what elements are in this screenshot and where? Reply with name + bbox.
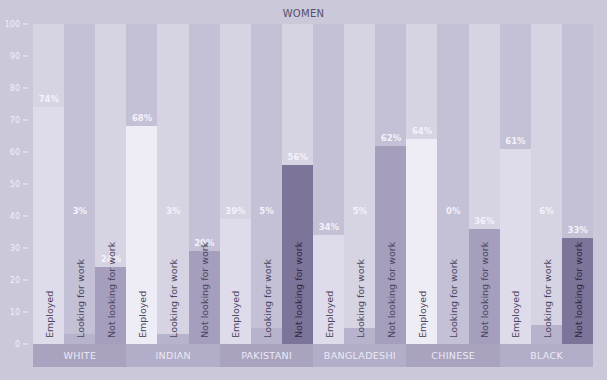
y-tick-mark bbox=[23, 312, 28, 313]
bar-track: 6%Looking for work bbox=[531, 24, 563, 344]
y-tick-label: 40 bbox=[10, 212, 20, 221]
y-tick-70: 70 bbox=[10, 116, 28, 125]
y-tick-label: 10 bbox=[10, 308, 20, 317]
series-label: Looking for work bbox=[541, 259, 552, 338]
value-label: 5% bbox=[251, 206, 283, 216]
y-tick-mark bbox=[23, 216, 28, 217]
y-tick-mark bbox=[23, 152, 28, 153]
y-tick-label: 0 bbox=[15, 340, 20, 349]
y-tick-mark bbox=[23, 88, 28, 89]
y-tick-mark bbox=[23, 56, 28, 57]
y-tick-mark bbox=[23, 120, 28, 121]
y-axis: 0102030405060708090100 bbox=[0, 0, 33, 380]
y-tick-label: 80 bbox=[10, 84, 20, 93]
series-label: Looking for work bbox=[354, 259, 365, 338]
series-label: Looking for work bbox=[261, 259, 272, 338]
value-label: 34% bbox=[313, 222, 345, 232]
series-label: Not looking for work bbox=[386, 242, 397, 338]
y-tick-label: 30 bbox=[10, 244, 20, 253]
value-label: 36% bbox=[469, 216, 501, 226]
plot-area: 74%Employed3%Looking for work24%Not look… bbox=[33, 0, 593, 380]
series-label: Employed bbox=[230, 291, 241, 338]
y-tick-label: 90 bbox=[10, 52, 20, 61]
y-tick-mark bbox=[23, 248, 28, 249]
bar-track: 74%Employed bbox=[33, 24, 65, 344]
y-tick-label: 100 bbox=[5, 20, 20, 29]
series-label: Not looking for work bbox=[292, 242, 303, 338]
y-tick-50: 50 bbox=[10, 180, 28, 189]
bar-track: 56%Not looking for work bbox=[282, 24, 314, 344]
series-label: Looking for work bbox=[74, 259, 85, 338]
series-label: Looking for work bbox=[168, 259, 179, 338]
y-tick-label: 50 bbox=[10, 180, 20, 189]
bar-track: 68%Employed bbox=[126, 24, 158, 344]
category-label-pakistani: PAKISTANI bbox=[220, 344, 314, 367]
category-label-indian: INDIAN bbox=[126, 344, 220, 367]
bar-track: 39%Employed bbox=[220, 24, 252, 344]
category-label-white: WHITE bbox=[33, 344, 127, 367]
y-tick-0: 0 bbox=[15, 340, 28, 349]
bar-track: 36%Not looking for work bbox=[469, 24, 501, 344]
y-tick-label: 70 bbox=[10, 116, 20, 125]
bar-track: 5%Looking for work bbox=[251, 24, 283, 344]
value-label: 61% bbox=[500, 136, 532, 146]
y-tick-60: 60 bbox=[10, 148, 28, 157]
series-label: Employed bbox=[323, 291, 334, 338]
value-label: 62% bbox=[375, 133, 407, 143]
series-label: Employed bbox=[417, 291, 428, 338]
bar-track: 62%Not looking for work bbox=[375, 24, 407, 344]
bar-track: 24%Not looking for work bbox=[95, 24, 127, 344]
value-label: 5% bbox=[344, 206, 376, 216]
value-label: 74% bbox=[33, 94, 65, 104]
bar-track: 0%Looking for work bbox=[437, 24, 469, 344]
y-tick-40: 40 bbox=[10, 212, 28, 221]
bar-track: 5%Looking for work bbox=[344, 24, 376, 344]
y-tick-mark bbox=[23, 24, 28, 25]
bar-track: 34%Employed bbox=[313, 24, 345, 344]
y-tick-mark bbox=[23, 184, 28, 185]
y-tick-mark bbox=[23, 280, 28, 281]
y-tick-20: 20 bbox=[10, 276, 28, 285]
series-label: Not looking for work bbox=[479, 242, 490, 338]
series-label: Not looking for work bbox=[199, 242, 210, 338]
value-label: 39% bbox=[220, 206, 252, 216]
bar-track: 61%Employed bbox=[500, 24, 532, 344]
y-tick-30: 30 bbox=[10, 244, 28, 253]
bar-track: 64%Employed bbox=[406, 24, 438, 344]
value-label: 6% bbox=[531, 206, 563, 216]
value-label: 3% bbox=[157, 206, 189, 216]
value-label: 3% bbox=[64, 206, 96, 216]
y-tick-label: 20 bbox=[10, 276, 20, 285]
y-tick-10: 10 bbox=[10, 308, 28, 317]
value-label: 68% bbox=[126, 113, 158, 123]
category-label-bangladeshi: BANGLADESHI bbox=[313, 344, 407, 367]
series-label: Looking for work bbox=[448, 259, 459, 338]
bar-track: 29%Not looking for work bbox=[189, 24, 221, 344]
bar-track: 3%Looking for work bbox=[64, 24, 96, 344]
y-tick-label: 60 bbox=[10, 148, 20, 157]
y-tick-mark bbox=[23, 344, 28, 345]
series-label: Employed bbox=[43, 291, 54, 338]
value-label: 64% bbox=[406, 126, 438, 136]
value-label: 56% bbox=[282, 152, 314, 162]
y-tick-90: 90 bbox=[10, 52, 28, 61]
category-label-chinese: CHINESE bbox=[406, 344, 500, 367]
y-tick-80: 80 bbox=[10, 84, 28, 93]
bar-track: 3%Looking for work bbox=[157, 24, 189, 344]
value-label: 0% bbox=[437, 206, 469, 216]
series-label: Employed bbox=[137, 291, 148, 338]
series-label: Not looking for work bbox=[106, 242, 117, 338]
y-tick-100: 100 bbox=[5, 20, 28, 29]
series-label: Employed bbox=[510, 291, 521, 338]
value-label: 33% bbox=[562, 225, 594, 235]
bar-track: 33%Not looking for work bbox=[562, 24, 594, 344]
category-label-black: BLACK bbox=[500, 344, 594, 367]
series-label: Not looking for work bbox=[572, 242, 583, 338]
